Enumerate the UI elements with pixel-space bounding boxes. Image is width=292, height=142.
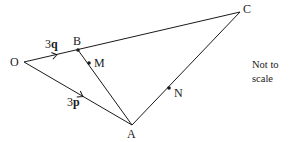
line-ac [132,12,240,125]
not-to-scale-line1: Not to [252,59,279,70]
label-c: C [243,2,251,16]
not-to-scale-line2: scale [252,73,273,84]
vector-label-ob: 3q [45,37,58,51]
point-n-dot [167,86,171,90]
point-b-dot [76,48,80,52]
label-m: M [94,56,105,70]
point-m-dot [87,61,91,65]
label-n: N [174,86,183,100]
label-b: B [73,34,81,48]
vector-ob-symbol: q [51,37,58,51]
vector-label-oa: 3p [67,95,80,109]
line-oa [24,62,132,125]
label-a: A [127,127,136,141]
line-ba [78,50,132,125]
vector-oa-symbol: p [73,95,80,109]
label-o: O [10,55,19,69]
vector-diagram: O B C A M N 3q 3p Not to scale [0,0,292,142]
